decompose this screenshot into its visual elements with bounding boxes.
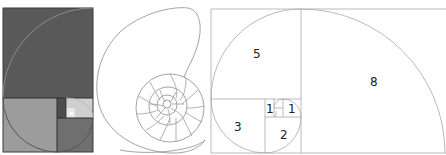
fibonacci-labels: 5 8 3 2 1 1 xyxy=(234,47,378,142)
label-3: 3 xyxy=(234,120,242,134)
label-2: 2 xyxy=(280,128,288,142)
label-1b: 1 xyxy=(288,102,296,116)
square-small xyxy=(70,112,73,115)
figure-canvas: 5 8 3 2 1 1 xyxy=(0,0,446,155)
shaded-golden-rectangle xyxy=(3,8,93,152)
square-21 xyxy=(57,118,93,152)
nautilus-shell xyxy=(97,8,205,153)
fibonacci-spiral-labeled xyxy=(211,9,446,153)
square-13 xyxy=(57,98,66,118)
label-5: 5 xyxy=(253,47,261,61)
square-34 xyxy=(3,98,57,152)
label-8: 8 xyxy=(370,75,378,89)
label-1a: 1 xyxy=(266,102,274,116)
square-55-dark xyxy=(3,8,93,98)
